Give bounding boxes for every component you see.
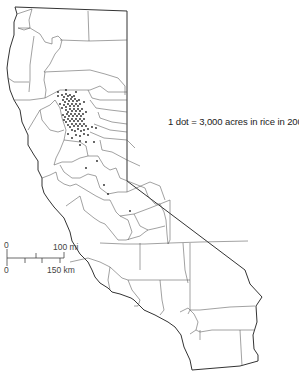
- scale-mi-end: 100 mi: [53, 242, 79, 252]
- map-legend: 1 dot = 3,000 acres in rice in 2007: [168, 116, 299, 127]
- california-map: [0, 0, 299, 373]
- scale-mi-zero: 0: [4, 240, 9, 250]
- scale-km-end: 150 km: [47, 265, 75, 275]
- county-boundaries: [8, 9, 255, 366]
- rice-dots: [57, 89, 131, 212]
- scale-km-zero: 0: [4, 265, 9, 275]
